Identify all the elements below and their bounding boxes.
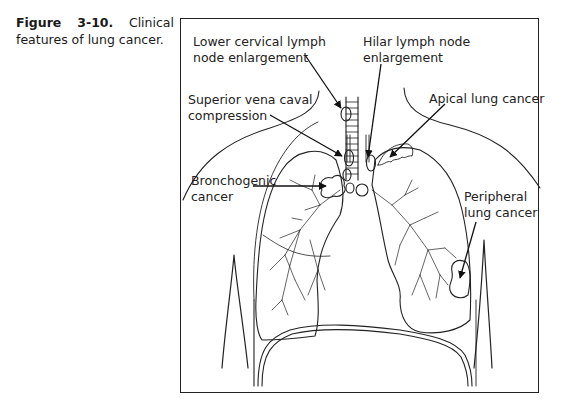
label-lower-cervical: Lower cervical lymph node enlargement xyxy=(193,34,326,66)
trachea xyxy=(346,97,358,180)
label-line: Apical lung cancer xyxy=(429,91,544,107)
label-peripheral: Peripheral lung cancer xyxy=(464,189,537,221)
left-arm-line xyxy=(222,255,248,368)
label-bronchogenic: Bronchogenic cancer xyxy=(191,173,276,205)
label-line: Hilar lymph node xyxy=(363,34,470,50)
label-svc: Superior vena caval compression xyxy=(188,92,313,124)
label-line: cancer xyxy=(191,189,276,205)
label-line: Bronchogenic xyxy=(191,173,276,189)
label-line: Superior vena caval xyxy=(188,92,313,108)
label-line: lung cancer xyxy=(464,205,537,221)
label-line: node enlargement xyxy=(193,50,326,66)
arrow-hilar xyxy=(368,64,381,157)
label-apical: Apical lung cancer xyxy=(429,91,544,107)
label-hilar: Hilar lymph node enlargement xyxy=(363,34,470,66)
label-line: enlargement xyxy=(363,50,470,66)
peripheral-tumor xyxy=(450,260,470,297)
label-line: compression xyxy=(188,108,313,124)
label-line: Peripheral xyxy=(464,189,537,205)
arrow-peripheral xyxy=(460,222,476,278)
label-line: Lower cervical lymph xyxy=(193,34,326,50)
right-arm-line xyxy=(474,240,492,368)
apical-tumor xyxy=(378,144,413,165)
